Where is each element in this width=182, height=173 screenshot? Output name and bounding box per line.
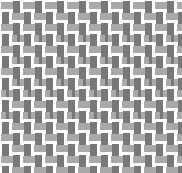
weave-dash-segment (56, 35, 61, 42)
weave-dash-segment (67, 112, 72, 119)
weave-horizontal-bar (177, 68, 182, 75)
weave-dash-segment (67, 90, 72, 97)
weave-dash-segment (78, 57, 83, 64)
weave-dash-segment (122, 57, 127, 64)
weave-horizontal-bar (177, 24, 182, 31)
weave-horizontal-bar (177, 90, 182, 97)
weave-dash-segment (144, 57, 149, 64)
weave-vertical-bar (134, 166, 141, 173)
weave-dash-segment (100, 79, 105, 86)
weave-horizontal-bar (177, 134, 182, 141)
weave-dash-segment (34, 35, 39, 42)
weave-dash-segment (166, 57, 171, 64)
weave-dash-segment (12, 35, 17, 42)
weave-dash-segment (111, 90, 116, 97)
weave-vertical-bar (68, 166, 75, 173)
weave-vertical-bar (24, 166, 31, 173)
weave-dash-segment (89, 90, 94, 97)
weave-dash-segment (133, 90, 138, 97)
weave-dash-segment (155, 90, 160, 97)
weave-dash-segment (122, 35, 127, 42)
weave-pattern-layer (0, 0, 182, 173)
weave-dash-segment (23, 90, 28, 97)
weave-vertical-bar (156, 166, 163, 173)
weave-dash-segment (1, 112, 6, 119)
weave-horizontal-bar (177, 156, 182, 163)
weave-dash-segment (89, 112, 94, 119)
weave-dash-segment (23, 112, 28, 119)
weave-dash-segment (34, 79, 39, 86)
weave-horizontal-bar (177, 46, 182, 53)
weave-vertical-bar (2, 166, 9, 173)
basketweave-texture-canvas (0, 0, 182, 173)
weave-dash-segment (166, 79, 171, 86)
weave-dash-segment (177, 112, 182, 119)
weave-dash-segment (12, 57, 17, 64)
weave-dash-segment (166, 35, 171, 42)
weave-dash-segment (133, 112, 138, 119)
weave-vertical-bar (46, 166, 53, 173)
weave-dash-segment (111, 112, 116, 119)
weave-dash-segment (155, 112, 160, 119)
weave-dash-segment (12, 79, 17, 86)
weave-dash-segment (1, 90, 6, 97)
weave-horizontal-bar (177, 2, 182, 9)
weave-dash-segment (78, 79, 83, 86)
weave-dash-segment (177, 90, 182, 97)
weave-dash-segment (144, 35, 149, 42)
weave-dash-segment (56, 57, 61, 64)
weave-vertical-bar (112, 166, 119, 173)
weave-dash-segment (45, 90, 50, 97)
weave-dash-segment (100, 57, 105, 64)
weave-horizontal-bar (177, 112, 182, 119)
weave-dash-segment (78, 35, 83, 42)
weave-vertical-bar (178, 166, 182, 173)
weave-dash-segment (122, 79, 127, 86)
weave-dash-segment (56, 79, 61, 86)
weave-dash-segment (34, 57, 39, 64)
weave-dash-segment (144, 79, 149, 86)
weave-vertical-bar (90, 166, 97, 173)
weave-dash-segment (45, 112, 50, 119)
weave-dash-segment (100, 35, 105, 42)
